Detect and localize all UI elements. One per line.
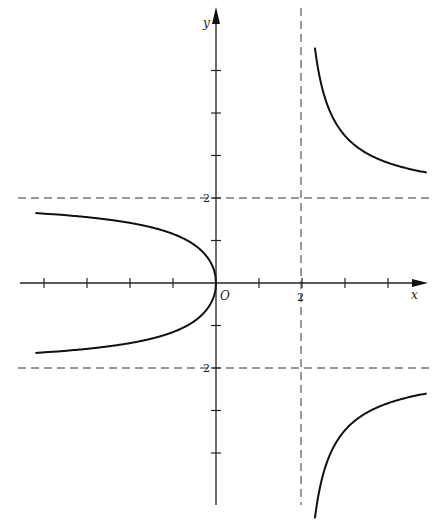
asymptotes: [18, 8, 430, 505]
y-tick-label-neg2: 2: [203, 362, 210, 375]
x-axis-label: x: [411, 288, 418, 302]
y-tick-label-2: 2: [203, 192, 210, 205]
y-axis-label: y: [202, 16, 210, 30]
graph-canvas: y x O 2 2 2: [0, 0, 444, 524]
y-axis-arrow-icon: [212, 7, 220, 24]
upper-right-branch-curve: [315, 48, 427, 173]
x-axis-arrow-icon: [412, 279, 428, 287]
axes: [20, 18, 418, 505]
origin-label: O: [220, 289, 230, 303]
lower-right-branch-curve: [315, 393, 427, 518]
x-tick-label-2: 2: [297, 291, 304, 304]
